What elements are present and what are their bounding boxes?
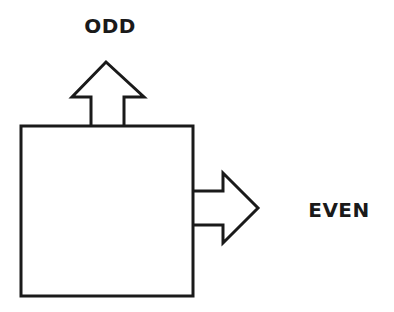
odd-output-arrow (72, 62, 144, 127)
process-box (21, 126, 193, 296)
diagram-canvas (0, 0, 394, 312)
even-output-arrow (192, 173, 258, 243)
even-label: EVEN (308, 200, 370, 220)
odd-label: ODD (84, 16, 136, 36)
